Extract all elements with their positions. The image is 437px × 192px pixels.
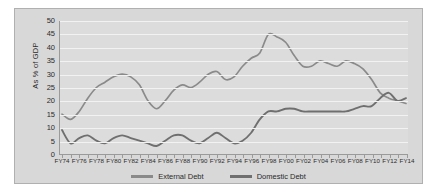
legend-label-external-debt: External Debt <box>158 172 203 181</box>
x-tick-FY92: FY92 <box>210 157 225 164</box>
x-tick-FY78: FY78 <box>89 157 104 164</box>
x-tick-FY98: FY98 <box>262 157 277 164</box>
x-tick-FY82: FY82 <box>124 157 139 164</box>
y-tick-20: 20 <box>35 97 55 105</box>
line-external-debt <box>62 33 406 119</box>
y-tick-35: 35 <box>35 57 55 65</box>
y-tick-25: 25 <box>35 84 55 92</box>
x-tick-FY08: FY08 <box>348 157 363 164</box>
x-axis-tick-labels: FY74FY76FY78FY80FY82FY84FY86FY88FY90FY92… <box>59 157 408 169</box>
x-tick-FY96: FY96 <box>244 157 259 164</box>
y-axis-tick-labels: 50454035302520151050 <box>35 21 55 155</box>
gridline <box>60 48 408 49</box>
plot-area <box>59 21 408 155</box>
x-tick-FY12: FY12 <box>382 157 397 164</box>
gridline <box>60 61 408 62</box>
x-tick-FY74: FY74 <box>55 157 70 164</box>
x-tick-FY86: FY86 <box>158 157 173 164</box>
y-tick-45: 45 <box>35 30 55 38</box>
y-tick-50: 50 <box>35 17 55 25</box>
legend-swatch-external-debt <box>131 175 153 178</box>
x-tick-FY14: FY14 <box>400 157 415 164</box>
chart-legend: External Debt Domestic Debt <box>15 172 422 181</box>
gridline <box>60 142 408 143</box>
x-tick-FY84: FY84 <box>141 157 156 164</box>
x-tick-FY06: FY06 <box>331 157 346 164</box>
gridline <box>60 34 408 35</box>
x-tick-FY90: FY90 <box>193 157 208 164</box>
x-tick-FY04: FY04 <box>313 157 328 164</box>
gridline <box>60 101 408 102</box>
gridline <box>60 75 408 76</box>
legend-item-domestic-debt: Domestic Debt <box>230 172 306 181</box>
x-tick-FY00: FY00 <box>279 157 294 164</box>
x-tick-FY94: FY94 <box>227 157 242 164</box>
chart-container: As % of GDP 50454035302520151050 FY74FY7… <box>14 8 423 184</box>
legend-label-domestic-debt: Domestic Debt <box>257 172 306 181</box>
gridline <box>60 128 408 129</box>
gridline <box>60 88 408 89</box>
y-tick-15: 15 <box>35 111 55 119</box>
y-tick-0: 0 <box>35 151 55 159</box>
x-tick-FY80: FY80 <box>106 157 121 164</box>
x-tick-FY10: FY10 <box>365 157 380 164</box>
y-tick-40: 40 <box>35 44 55 52</box>
x-tick-FY76: FY76 <box>72 157 87 164</box>
gridline <box>60 115 408 116</box>
y-tick-5: 5 <box>35 138 55 146</box>
legend-swatch-domestic-debt <box>230 175 252 178</box>
x-tick-FY88: FY88 <box>175 157 190 164</box>
y-tick-10: 10 <box>35 124 55 132</box>
y-tick-30: 30 <box>35 71 55 79</box>
x-tick-FY02: FY02 <box>296 157 311 164</box>
gridline <box>60 21 408 22</box>
legend-item-external-debt: External Debt <box>131 172 203 181</box>
